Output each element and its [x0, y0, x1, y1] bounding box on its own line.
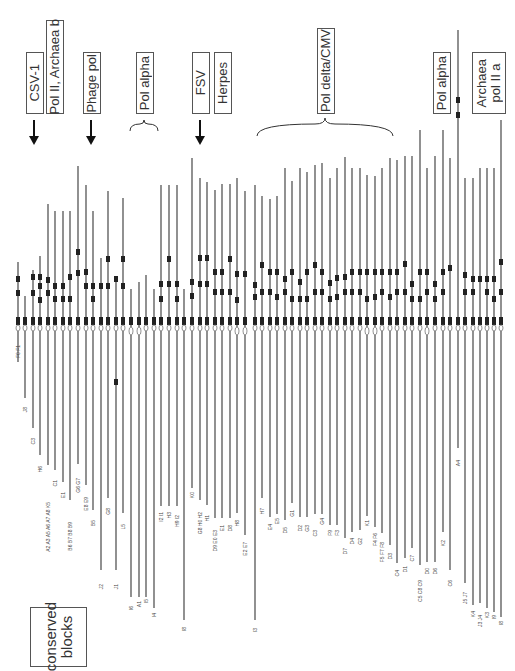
conserved-block-marker: [463, 317, 467, 325]
loop-marker: [38, 325, 42, 331]
lane: F0 F1: [15, 262, 21, 362]
conserved-block-marker: [298, 317, 302, 325]
motif-marker: [433, 281, 437, 287]
motif-marker: [243, 271, 247, 277]
lane-label: C4: [394, 570, 400, 577]
lane: K3: [484, 168, 490, 618]
motif-marker: [190, 279, 194, 285]
motif-marker: [425, 289, 429, 295]
lane-label: C1: [52, 480, 58, 487]
motif-marker: [76, 249, 80, 255]
loop-marker: [175, 325, 179, 331]
conserved-block-marker: [380, 317, 384, 325]
conserved-block-marker: [243, 317, 247, 325]
conserved-block-marker: [268, 317, 272, 325]
motif-marker: [253, 282, 257, 288]
brace-icon: [257, 118, 393, 136]
lane: G2: [357, 168, 363, 545]
group-label-pol-delta-cmv: Pol delta/CMV: [317, 28, 335, 114]
conserved-block-marker: [485, 317, 489, 325]
lane-label: G4: [319, 518, 325, 525]
loop-marker: [76, 325, 80, 331]
lane-label: G2: [357, 538, 363, 545]
loop-marker: [471, 325, 475, 331]
conserved-block-marker: [114, 317, 118, 325]
lane-label: D0: [424, 568, 430, 575]
motif-marker: [167, 256, 171, 262]
lane: D4: [349, 168, 355, 544]
motif-marker: [76, 270, 80, 276]
conserved-block-marker: [23, 317, 27, 325]
loop-marker: [275, 325, 279, 331]
motif-marker: [463, 272, 467, 278]
motif-marker: [283, 289, 287, 295]
conserved-block-marker: [137, 317, 141, 325]
loop-marker: [114, 325, 118, 331]
motif-marker: [268, 269, 272, 275]
loop-marker: [235, 327, 239, 335]
lane-label: A2 A3 A5 A6 A7 A8 K5: [45, 502, 51, 552]
motif-marker: [220, 289, 224, 295]
conserved-block-marker: [350, 317, 354, 325]
motif-marker: [456, 112, 460, 118]
group-label-csv1: CSV-1: [26, 52, 44, 114]
motif-marker: [275, 269, 279, 275]
lane: D6: [432, 156, 438, 574]
motif-marker: [298, 296, 302, 302]
motif-marker: [358, 289, 362, 295]
lane: E4: [267, 199, 273, 530]
motif-marker: [198, 281, 202, 287]
motif-marker: [471, 276, 475, 282]
lane: C5 C8 C9: [417, 130, 423, 602]
conserved-block-marker: [358, 317, 362, 325]
lane-label: K2: [440, 540, 446, 546]
loop-marker: [313, 325, 317, 331]
conserved-block-marker: [53, 317, 57, 325]
conserved-block-marker: [16, 317, 20, 325]
lane: J1: [113, 276, 119, 589]
motif-marker: [38, 297, 42, 303]
loop-marker: [365, 327, 369, 335]
loop-marker: [99, 325, 103, 331]
lane: J8: [22, 296, 28, 412]
motif-marker: [343, 289, 347, 295]
motif-marker: [418, 269, 422, 275]
conserved-block-marker: [91, 317, 95, 325]
conserved-block-marker: [448, 317, 452, 325]
lane-label: K4: [470, 611, 476, 617]
lane: I2 I1: [158, 185, 164, 522]
lane: I9: [491, 168, 497, 619]
lane: G1: [289, 181, 295, 517]
motif-marker: [190, 293, 194, 299]
lane-label: F9: [327, 530, 333, 536]
loop-marker: [167, 325, 171, 331]
conserved-block-marker: [313, 317, 317, 325]
motif-marker: [53, 283, 57, 289]
loop-marker: [298, 325, 302, 331]
group-label-phage-pol: Phage pol: [83, 52, 101, 114]
lane: B5: [90, 211, 96, 526]
motif-marker: [305, 296, 309, 302]
lane: E2 E7: [242, 191, 248, 556]
motif-marker: [228, 289, 232, 295]
conserved-block-marker: [175, 317, 179, 325]
lane: I6: [128, 289, 134, 610]
conserved-block-marker: [129, 317, 133, 325]
lane: D5: [282, 168, 288, 533]
loop-marker: [328, 325, 332, 331]
conserved-block-marker: [441, 317, 445, 325]
motif-marker: [290, 296, 294, 302]
loop-marker: [61, 325, 65, 331]
loop-marker: [23, 325, 27, 331]
motif-marker: [298, 279, 302, 285]
group-label-text: Herpes: [216, 62, 230, 104]
motif-marker: [53, 296, 57, 302]
loop-marker: [433, 325, 437, 331]
lane-label: I3: [252, 628, 258, 632]
loop-marker: [53, 325, 57, 331]
motif-marker: [478, 276, 482, 282]
lane-label: H9 I2: [174, 515, 180, 527]
conserved-block-marker: [159, 317, 163, 325]
conserved-block-marker: [478, 317, 482, 325]
loop-marker: [129, 327, 133, 335]
